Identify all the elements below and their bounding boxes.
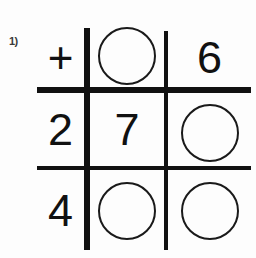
answer-circle-r3c3[interactable] <box>181 182 239 240</box>
grid-cell-r3c3[interactable] <box>168 176 251 246</box>
grid-cells: + 6 2 7 4 <box>0 0 256 258</box>
grid-cell-r2c2: 7 <box>90 93 164 166</box>
math-worksheet-problem: 1) + 6 2 7 4 <box>0 0 256 258</box>
grid-cell-r2c1: 2 <box>37 93 84 166</box>
grid-cell-r1c1: + <box>37 28 84 87</box>
digit-r1c3: 6 <box>197 35 222 80</box>
grid-cell-r1c3: 6 <box>168 28 251 87</box>
grid-cell-r3c1: 4 <box>37 170 84 250</box>
digit-r3c1: 4 <box>48 188 73 233</box>
digit-r2c1: 2 <box>48 107 73 152</box>
grid-cell-r2c3[interactable] <box>168 99 251 166</box>
answer-circle-r2c3[interactable] <box>181 104 239 162</box>
plus-operator-icon: + <box>48 36 74 80</box>
grid-cell-r1c2[interactable] <box>90 24 164 87</box>
answer-circle-r3c2[interactable] <box>98 182 156 240</box>
answer-circle-r1c2[interactable] <box>98 27 156 85</box>
grid-cell-r3c2[interactable] <box>90 176 164 246</box>
digit-r2c2: 7 <box>114 107 139 152</box>
